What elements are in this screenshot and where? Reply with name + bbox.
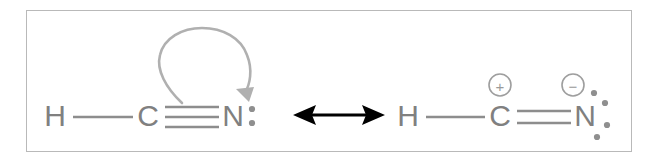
right-hydrogen-label: H <box>397 99 419 132</box>
left-structure: H C N <box>44 28 255 132</box>
lone-pair-dot-upper <box>249 106 255 112</box>
left-hydrogen-label: H <box>44 99 66 132</box>
left-cn-triple-bond <box>165 107 219 127</box>
left-carbon-label: C <box>137 99 159 132</box>
positive-charge-sign: + <box>496 78 505 95</box>
lone-pair-dot-lower <box>249 120 255 126</box>
right-nitrogen-label: N <box>574 99 596 132</box>
right-structure: H C + N − <box>397 74 610 140</box>
nitrogen-negative-charge: − <box>562 74 584 96</box>
left-nitrogen-label: N <box>222 99 244 132</box>
right-cn-double-bond <box>517 111 571 123</box>
left-nitrogen-lone-pair <box>249 106 255 126</box>
carbon-positive-charge: + <box>489 74 511 96</box>
lone-pair-dot-upper-outer <box>602 100 608 106</box>
electron-pushing-curly-arrow <box>159 28 254 103</box>
resonance-double-arrow <box>293 105 385 125</box>
chemistry-diagram-canvas: H C N <box>0 0 659 163</box>
right-nitrogen-lone-pair-lower <box>594 122 610 140</box>
negative-charge-sign: − <box>569 78 578 95</box>
lone-pair-dot-lower-outer <box>604 122 610 128</box>
lone-pair-dot-lower-inner <box>594 134 600 140</box>
lone-pair-dot-upper-inner <box>591 90 597 96</box>
resonance-figure: H C N <box>0 0 659 163</box>
right-carbon-label: C <box>489 99 511 132</box>
